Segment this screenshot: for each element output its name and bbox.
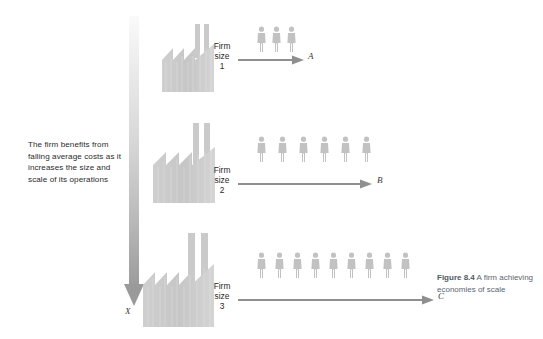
person-icon bbox=[298, 136, 309, 162]
person-icon bbox=[382, 252, 393, 278]
size-number-3: 3 bbox=[207, 302, 237, 312]
worker-group-2 bbox=[256, 136, 376, 162]
person-icon bbox=[328, 252, 339, 278]
firm-size-label-2: Firm size 2 bbox=[207, 166, 237, 195]
person-icon bbox=[319, 136, 330, 162]
size-number-1: 1 bbox=[207, 62, 237, 72]
firm-size-label-1: Firm size 1 bbox=[207, 42, 237, 71]
output-arrow-3 bbox=[238, 295, 434, 305]
person-icon bbox=[361, 136, 372, 162]
person-icon bbox=[340, 136, 351, 162]
output-arrow-1 bbox=[238, 55, 304, 65]
firm-size-row-2: Firm size 2 bbox=[0, 120, 543, 215]
person-icon bbox=[292, 252, 303, 278]
worker-group-1 bbox=[256, 26, 301, 52]
person-icon bbox=[346, 252, 357, 278]
person-icon bbox=[400, 252, 411, 278]
person-icon bbox=[256, 136, 267, 162]
person-icon bbox=[256, 26, 267, 52]
output-arrow-2 bbox=[238, 179, 372, 189]
person-icon bbox=[271, 26, 282, 52]
output-label-b: B bbox=[377, 175, 383, 185]
firm-size-row-1: Firm size 1 A bbox=[0, 10, 543, 100]
person-icon bbox=[286, 26, 297, 52]
size-number-2: 2 bbox=[207, 186, 237, 196]
person-icon bbox=[256, 252, 267, 278]
person-icon bbox=[277, 136, 288, 162]
worker-group-3 bbox=[256, 252, 415, 278]
person-icon bbox=[364, 252, 375, 278]
figure-number: Figure 8.4 bbox=[437, 273, 475, 282]
person-icon bbox=[310, 252, 321, 278]
output-label-a: A bbox=[308, 51, 314, 61]
person-icon bbox=[274, 252, 285, 278]
figure-container: The firm benefits from falling average c… bbox=[0, 0, 543, 339]
firm-size-label-3: Firm size 3 bbox=[207, 282, 237, 311]
factory-icon-3 bbox=[143, 231, 223, 327]
figure-caption: Figure 8.4 A firm achieving economies of… bbox=[437, 272, 537, 295]
